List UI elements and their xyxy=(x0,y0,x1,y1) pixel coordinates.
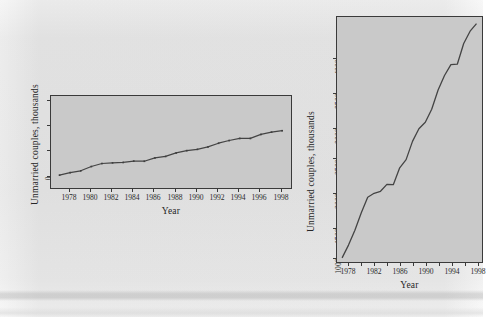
right-x-tickmark-1994 xyxy=(452,263,453,266)
left-x-tick-1994: 1994 xyxy=(230,193,245,202)
left-x-tickmark-1998 xyxy=(281,189,282,192)
left-x-tickmark-1992 xyxy=(217,189,218,192)
right-x-tickmark-1998 xyxy=(478,263,479,266)
left-x-tick-1990: 1990 xyxy=(188,193,203,202)
right-x-tick-1990: 1990 xyxy=(418,267,433,276)
left-x-tick-1992: 1992 xyxy=(209,193,224,202)
left-data-line xyxy=(60,131,283,175)
left-y-axis-title: Unmarried couples, thousands xyxy=(30,84,40,205)
right-x-tickmark-1988 xyxy=(413,263,414,266)
right-x-tickmark-1982 xyxy=(374,263,375,266)
right-x-tick-1986: 1986 xyxy=(392,267,407,276)
left-x-tickmark-1994 xyxy=(238,189,239,192)
chart-right: Unmarried couples, thousands 1000 1500 2… xyxy=(290,0,483,317)
left-plot-panel xyxy=(50,95,292,189)
left-x-tickmark-1982 xyxy=(111,189,112,192)
right-plot-svg xyxy=(337,17,482,262)
right-x-tickmark-1978 xyxy=(348,263,349,266)
left-x-tick-1988: 1988 xyxy=(167,193,182,202)
left-x-tick-1980: 1980 xyxy=(82,193,97,202)
right-x-tickmark-1992 xyxy=(439,263,440,266)
right-x-axis-title: Year xyxy=(336,280,483,290)
right-x-tick-1994: 1994 xyxy=(444,267,459,276)
scan-artifact-band-lower xyxy=(0,307,483,317)
left-x-tickmark-1978 xyxy=(69,189,70,192)
left-data-markers xyxy=(59,130,283,176)
right-x-tick-1982: 1982 xyxy=(366,267,381,276)
left-x-axis-title: Year xyxy=(50,206,292,216)
chart-left: Unmarried couples, thousands 0 2000 4000… xyxy=(0,0,300,240)
right-x-tick-1978: 1978 xyxy=(340,267,355,276)
right-data-line xyxy=(342,24,476,258)
left-x-tick-1978: 1978 xyxy=(61,193,76,202)
left-x-tick-1986: 1986 xyxy=(145,193,160,202)
right-plot-panel xyxy=(336,16,483,263)
left-x-tickmark-1986 xyxy=(153,189,154,192)
left-x-tick-1996: 1996 xyxy=(251,193,266,202)
left-x-tickmark-1984 xyxy=(132,189,133,192)
left-x-tick-1998: 1998 xyxy=(273,193,288,202)
right-x-tickmark-1996 xyxy=(465,263,466,266)
scan-artifact-band xyxy=(0,290,483,301)
left-x-tick-1982: 1982 xyxy=(103,193,118,202)
right-x-tickmark-1984 xyxy=(387,263,388,266)
left-x-tickmark-1990 xyxy=(196,189,197,192)
left-x-tickmark-1996 xyxy=(259,189,260,192)
left-x-tick-1984: 1984 xyxy=(124,193,139,202)
right-x-tickmark-1990 xyxy=(426,263,427,266)
right-x-tick-1998: 1998 xyxy=(470,267,485,276)
left-plot-svg xyxy=(51,96,291,188)
right-y-axis-title: Unmarried couples, thousands xyxy=(306,111,316,232)
left-x-tickmark-1980 xyxy=(90,189,91,192)
right-x-tickmark-1980 xyxy=(361,263,362,266)
right-x-tickmark-1986 xyxy=(400,263,401,266)
left-x-tickmark-1988 xyxy=(175,189,176,192)
